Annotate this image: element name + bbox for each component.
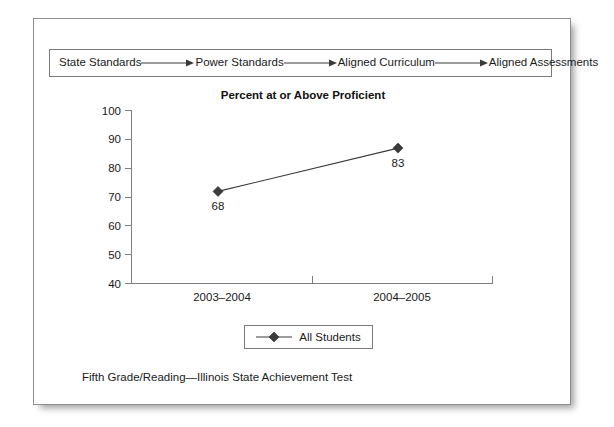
figure-caption: Fifth Grade/Reading—Illinois State Achie…: [82, 371, 352, 383]
legend-diamond-marker-icon: [256, 331, 292, 343]
data-point-label: 83: [392, 157, 405, 169]
x-tick-label: 2003–2004: [193, 291, 251, 303]
y-tick-label: 40: [108, 278, 121, 290]
x-tick-label: 2004–2005: [373, 291, 431, 303]
y-tick-label: 80: [108, 162, 121, 174]
y-axis-ticks: [125, 111, 132, 284]
y-tick-label: 50: [108, 249, 121, 261]
y-tick-label: 60: [108, 220, 121, 232]
y-tick-label: 90: [108, 133, 121, 145]
chart-legend: All Students: [244, 325, 373, 349]
series-line-all-students: [218, 148, 398, 191]
y-tick-label: 100: [102, 105, 121, 117]
data-point-marker: [393, 143, 403, 153]
y-axis-tick-labels: 100 90 80 70 60 50 40: [102, 105, 121, 290]
data-point-label: 68: [212, 200, 225, 212]
chart-title: Percent at or Above Proficient: [34, 89, 572, 101]
figure-card: State Standards Power Standards Aligned …: [33, 18, 571, 405]
legend-label-all-students: All Students: [299, 331, 360, 343]
plot-area: 100 90 80 70 60 50 40 68 83 2003–2004 20…: [89, 105, 529, 305]
chart: Percent at or Above Proficient 100 90: [34, 19, 572, 406]
y-tick-label: 70: [108, 191, 121, 203]
data-point-marker: [213, 186, 223, 196]
